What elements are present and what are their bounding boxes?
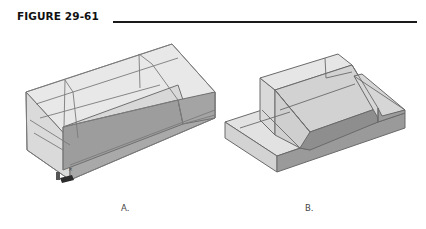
figure-drawing: ×: [0, 0, 426, 229]
solid-model-b: [225, 54, 405, 172]
caption-a: A.: [121, 203, 129, 213]
caption-b: B.: [305, 203, 314, 213]
svg-text:×: ×: [68, 165, 73, 172]
solid-model-a: [26, 44, 215, 180]
